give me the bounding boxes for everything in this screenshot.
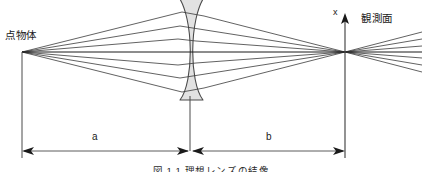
refracted-ray-2 (199, 29, 345, 52)
distance-b-label: b (266, 132, 272, 142)
optical-ray-diagram-figure: 点物体 x 観測面 a b 図 1.1 理想レンズの結像 (0, 0, 422, 172)
observation-plane-label: 観測面 (361, 13, 393, 24)
incident-ray-5 (22, 52, 178, 65)
x-axis-label: x (333, 8, 338, 17)
point-object-label: 点物体 (5, 30, 37, 41)
diagram-canvas (0, 0, 422, 172)
distance-a-label: a (92, 132, 98, 142)
refracted-ray-6 (199, 52, 345, 75)
figure-caption: 図 1.1 理想レンズの結像 (0, 163, 422, 172)
incident-ray-1 (22, 12, 182, 52)
dimension-a (22, 147, 189, 155)
incident-ray-7 (22, 52, 182, 92)
diverging-ray-2 (345, 39, 422, 52)
biconvex-lens (178, 0, 205, 100)
dimension-b (192, 147, 345, 155)
diverging-ray-6 (345, 52, 422, 65)
incident-ray-3 (22, 39, 178, 52)
incident-ray-6 (22, 52, 180, 78)
incident-ray-2 (22, 26, 180, 52)
